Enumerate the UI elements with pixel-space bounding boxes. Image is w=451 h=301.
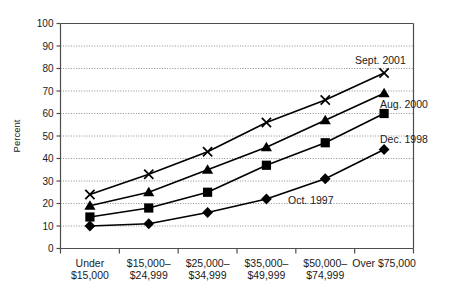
marker-square-icon xyxy=(262,161,271,170)
y-tick-label: 80 xyxy=(42,63,54,74)
series-annotation-dec-1998: Dec. 1998 xyxy=(380,133,428,145)
series-annotation-aug-2000: Aug. 2000 xyxy=(380,98,428,110)
x-category-label: $35,000–$49,999 xyxy=(245,257,289,282)
x-category-label: $15,000–$24,999 xyxy=(127,257,171,282)
y-axis-title: Percent xyxy=(11,119,22,152)
y-tick-label: 60 xyxy=(42,108,54,119)
x-axis-ticks xyxy=(61,249,414,254)
y-tick-label: 40 xyxy=(42,153,54,164)
x-category-label: Under$15,000 xyxy=(71,257,109,282)
series-annotation-sept-2001: Sept. 2001 xyxy=(355,54,406,66)
y-tick-label: 0 xyxy=(48,243,54,254)
series-annotation-oct-1997: Oct. 1997 xyxy=(288,194,334,206)
x-category-label: Over $75,000 xyxy=(352,257,416,269)
y-axis: 0102030405060708090100 xyxy=(37,18,61,254)
y-tick-label: 20 xyxy=(42,198,54,209)
line-chart: 0102030405060708090100PercentUnder$15,00… xyxy=(0,0,451,301)
marker-square-icon xyxy=(144,203,153,212)
x-axis-labels: Under$15,000$15,000–$24,999$25,000–$34,9… xyxy=(71,257,416,282)
y-tick-label: 30 xyxy=(42,176,54,187)
y-tick-label: 90 xyxy=(42,41,54,52)
x-category-label: $50,000–$74,999 xyxy=(303,257,347,282)
y-tick-label: 50 xyxy=(42,131,54,142)
marker-square-icon xyxy=(203,188,212,197)
marker-square-icon xyxy=(379,109,388,118)
chart-container: 0102030405060708090100PercentUnder$15,00… xyxy=(0,0,451,301)
y-tick-label: 10 xyxy=(42,221,54,232)
y-tick-label: 70 xyxy=(42,86,54,97)
y-tick-label: 100 xyxy=(37,18,54,29)
marker-square-icon xyxy=(85,212,94,221)
x-category-label: $25,000–$34,999 xyxy=(186,257,230,282)
marker-square-icon xyxy=(321,138,330,147)
